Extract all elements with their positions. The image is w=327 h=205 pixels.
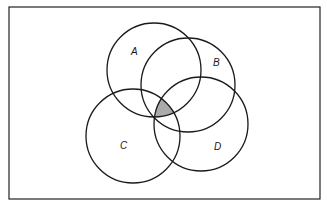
- set-a-circle: [107, 23, 201, 117]
- set-d-circle: [154, 77, 248, 171]
- set-a-label: A: [130, 46, 138, 57]
- venn-diagram: ABCD: [0, 0, 327, 205]
- set-b-label: B: [213, 57, 220, 68]
- set-c-label: C: [120, 140, 128, 151]
- set-d-label: D: [214, 141, 221, 152]
- set-c-circle: [86, 89, 180, 183]
- set-b-circle: [141, 38, 235, 132]
